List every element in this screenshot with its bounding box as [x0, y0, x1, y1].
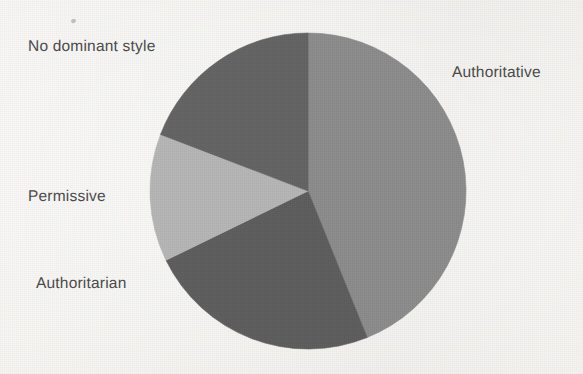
pie-chart-page: Authoritative: 44%Authoritarian: 24%Perm…: [0, 0, 583, 374]
pie-label-authoritative: Authoritative: [452, 64, 541, 82]
pie-label-permissive: Permissive: [28, 188, 106, 206]
pie-slice-group: Authoritative: 44%Authoritarian: 24%Perm…: [150, 33, 466, 349]
pie-label-authoritarian: Authoritarian: [36, 275, 126, 293]
pie-chart: Authoritative: 44%Authoritarian: 24%Perm…: [0, 0, 583, 374]
pie-label-no-dominant-style: No dominant style: [28, 38, 155, 56]
